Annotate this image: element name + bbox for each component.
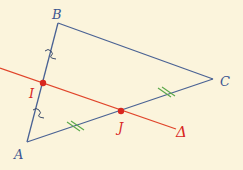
point-i xyxy=(40,80,46,86)
point-j xyxy=(118,108,124,114)
label-b: B xyxy=(52,8,62,21)
label-a: A xyxy=(14,148,23,161)
label-i: I xyxy=(29,87,34,100)
label-delta: Δ xyxy=(176,125,187,140)
equal-mark-jc xyxy=(158,87,175,97)
diagram-canvas: B A C I J Δ xyxy=(0,0,243,170)
label-j: J xyxy=(118,121,123,134)
label-c: C xyxy=(220,75,230,88)
triangle-figure xyxy=(0,0,243,170)
side-bc xyxy=(58,23,213,79)
line-delta xyxy=(0,68,176,129)
